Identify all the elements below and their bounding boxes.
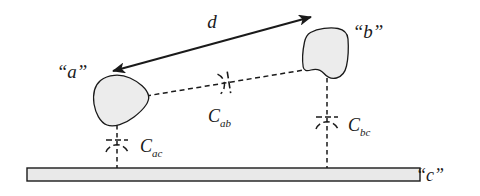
label-compliance-ac: C ac [140,136,163,159]
label-distance-d: d [207,11,217,32]
label-compliance-bc-sub: bc [360,126,371,138]
compliance-symbol-ab [217,72,230,95]
label-compliance-bc: C bc [348,115,371,138]
label-compliance-ac-sub: ac [152,147,163,159]
ground-bar-rect [27,168,420,181]
label-compliance-ab-sub: ab [220,117,232,129]
label-compliance-ab: C ab [208,106,232,129]
body-b-outline [303,28,349,78]
label-body-a: “a” [57,61,88,82]
schematic-diagram: “a” “b” “c” d C ab C ac C bc [0,0,480,196]
label-ground-c: “c” [416,165,444,185]
body-a-outline [94,75,149,126]
diagram-canvas: “a” “b” “c” d C ab C ac C bc [0,0,480,196]
body-b-shape [303,28,349,78]
ground-bar-c [27,168,420,181]
label-body-b: “b” [353,21,384,42]
body-a-shape [94,75,149,126]
